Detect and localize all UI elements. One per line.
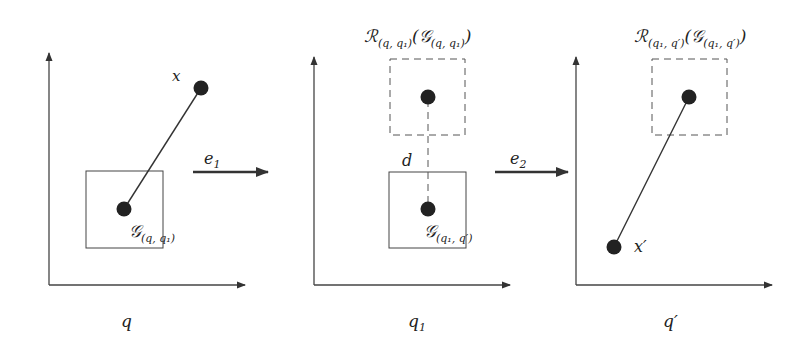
- transformed-point: [682, 90, 697, 105]
- e2-label: e2: [510, 149, 526, 171]
- axis-label-q: q: [121, 311, 132, 331]
- grasp-label: 𝒢(q, q₁): [129, 221, 175, 245]
- transition-e2: e2: [495, 149, 568, 172]
- e1-label: e1: [204, 149, 220, 171]
- axis-label-q1: q1: [408, 311, 426, 334]
- grasp-label: 𝒢(q₁, q′): [424, 221, 473, 245]
- panel-qprime: x′ ℛ(q₁, q′)(𝒢(q₁, q′)) q′: [576, 26, 772, 331]
- point-x-prime: [607, 240, 622, 255]
- transition-e1: e1: [193, 149, 268, 172]
- diagram-canvas: x 𝒢(q, q₁) q e1 d ℛ(q, q₁)(𝒢(q, q₁)) 𝒢(q…: [0, 0, 812, 348]
- point-x-prime-label: x′: [634, 237, 647, 256]
- panel-q1: d ℛ(q, q₁)(𝒢(q, q₁)) 𝒢(q₁, q′) q1: [314, 26, 510, 334]
- panel-q: x 𝒢(q, q₁) q: [49, 53, 245, 331]
- axis-label-qprime: q′: [663, 311, 678, 331]
- transform-label: ℛ(q₁, q′)(𝒢(q₁, q′)): [634, 26, 746, 50]
- grasp-point: [117, 202, 132, 217]
- point-x: [194, 81, 209, 96]
- point-x-label: x: [172, 67, 181, 85]
- grasp-point: [421, 202, 436, 217]
- transformed-point: [421, 90, 436, 105]
- distance-label: d: [402, 151, 412, 170]
- transform-label: ℛ(q, q₁)(𝒢(q, q₁)): [364, 26, 471, 50]
